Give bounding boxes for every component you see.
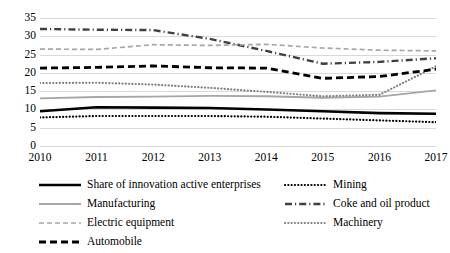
line-chart: 05101520253035 2010201120122013201420152… [0, 0, 450, 253]
legend-item[interactable]: Machinery [284, 214, 383, 232]
y-axis-tick-label: 20 [0, 67, 36, 79]
legend-item[interactable]: Electric equipment [38, 214, 174, 232]
legend-swatch-icon [284, 179, 328, 191]
y-axis-labels: 05101520253035 [0, 18, 36, 146]
legend-item[interactable]: Manufacturing [38, 195, 155, 213]
y-axis-tick-label: 10 [0, 103, 36, 115]
series-line-1 [40, 116, 436, 122]
legend-item[interactable]: Mining [284, 176, 367, 194]
x-axis-tick-label: 2017 [425, 152, 448, 164]
series-line-6 [40, 66, 436, 78]
legend-item-label: Machinery [333, 217, 383, 229]
x-axis-tick-label: 2012 [142, 152, 165, 164]
legend-item-label: Manufacturing [87, 198, 155, 210]
legend-swatch-icon [38, 217, 82, 229]
x-axis-tick-label: 2010 [29, 152, 52, 164]
chart-legend: Share of innovation active enterprisesMi… [38, 176, 438, 252]
y-axis-tick-label: 0 [0, 140, 36, 152]
x-axis-tick-label: 2011 [85, 152, 108, 164]
legend-item-label: Automobile [87, 236, 142, 248]
legend-swatch-icon [38, 179, 82, 191]
legend-item[interactable]: Coke and oil product [284, 195, 430, 213]
y-axis-tick-label: 25 [0, 49, 36, 61]
legend-item[interactable]: Share of innovation active enterprises [38, 176, 261, 194]
legend-swatch-icon [284, 217, 328, 229]
series-line-0 [40, 107, 436, 114]
legend-item-label: Share of innovation active enterprises [87, 179, 261, 191]
legend-swatch-icon [284, 198, 328, 210]
plot-area [40, 18, 436, 146]
x-axis-labels: 20102011201220132014201520162017 [40, 150, 436, 168]
x-axis-tick-label: 2014 [255, 152, 278, 164]
legend-item-label: Coke and oil product [333, 198, 430, 210]
plot-wrapper: 05101520253035 2010201120122013201420152… [0, 0, 450, 170]
series-line-3 [40, 29, 436, 64]
gridline [40, 146, 436, 147]
legend-item-label: Electric equipment [87, 217, 174, 229]
legend-item[interactable]: Automobile [38, 233, 142, 251]
y-axis-tick-label: 5 [0, 122, 36, 134]
x-axis-tick-label: 2016 [368, 152, 391, 164]
legend-swatch-icon [38, 236, 82, 248]
x-axis-tick-label: 2013 [198, 152, 221, 164]
series-lines [40, 18, 436, 146]
x-axis-tick-label: 2015 [311, 152, 334, 164]
y-axis-tick-label: 30 [0, 30, 36, 42]
legend-item-label: Mining [333, 179, 367, 191]
legend-swatch-icon [38, 198, 82, 210]
series-line-5 [40, 66, 436, 96]
y-axis-tick-label: 15 [0, 85, 36, 97]
y-axis-tick-label: 35 [0, 12, 36, 24]
